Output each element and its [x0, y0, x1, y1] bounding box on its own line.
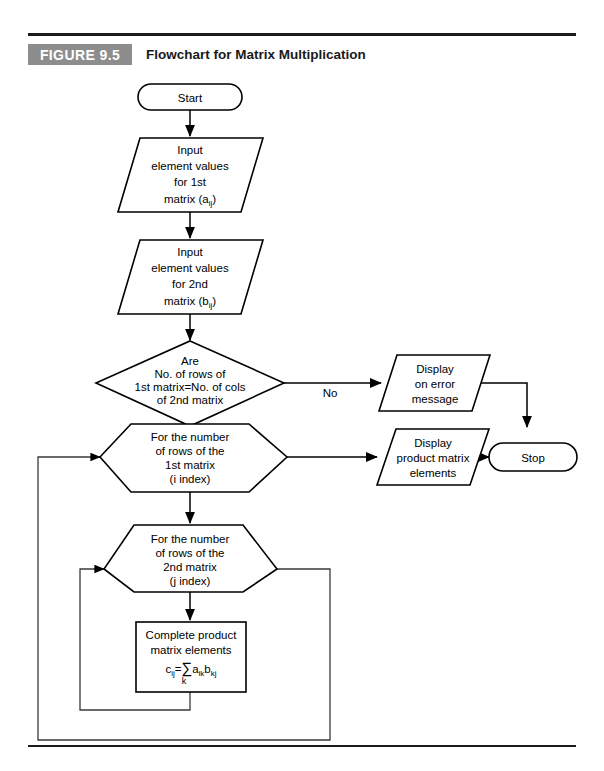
node-input1-line4-post: ): [212, 193, 216, 205]
node-input1-line2: element values: [151, 160, 229, 172]
node-input-first-matrix: Input element values for 1st matrix (aij…: [118, 138, 263, 212]
node-start-label: Start: [178, 92, 203, 104]
node-input2-line2: element values: [151, 262, 229, 274]
node-error-line2: on error: [415, 378, 455, 390]
node-input1-line3: for 1st: [174, 176, 207, 188]
node-display-error-message: Display on error message: [379, 355, 490, 411]
figure-number-badge: FIGURE 9.5: [28, 44, 132, 65]
connector-outer-loop-back: [38, 457, 330, 740]
node-loop-rows-second-matrix: For the number of rows of the 2nd matrix…: [104, 525, 277, 592]
node-decision-line1: Are: [181, 355, 199, 367]
node-loop-j-line3: 2nd matrix: [163, 561, 217, 573]
node-loop-i-line3: 1st matrix: [165, 459, 215, 471]
node-loop-j-line4: (j index): [170, 575, 211, 587]
figure-title: Flowchart for Matrix Multiplication: [146, 45, 366, 65]
flowchart-canvas: Start Input element values for 1st matri…: [0, 72, 604, 747]
node-compute-line1: Complete product: [146, 629, 238, 641]
node-compute-line2: matrix elements: [150, 644, 231, 656]
node-loop-j-line1: For the number: [151, 533, 230, 545]
node-loop-i-line2: of rows of the: [155, 445, 224, 457]
node-input2-line1: Input: [177, 246, 203, 258]
node-decision-line4: of 2nd matrix: [157, 394, 224, 406]
node-compute-product-elements: Complete product matrix elements cij=∑ai…: [136, 622, 246, 692]
top-rule: [28, 33, 576, 36]
formula-k-index: k: [182, 676, 187, 686]
node-input2-line3: for 2nd: [172, 278, 208, 290]
node-display-line1: Display: [414, 437, 452, 449]
node-decision-line2: No. of rows of: [155, 368, 227, 380]
formula-sigma: ∑: [181, 659, 192, 677]
node-loop-i-line1: For the number: [151, 431, 230, 443]
bottom-rule: [28, 745, 576, 747]
node-error-line1: Display: [416, 363, 454, 375]
formula-b-sub: kj: [211, 669, 217, 678]
node-decision-line3: 1st matrix=No. of cols: [135, 381, 246, 393]
node-input-second-matrix: Input element values for 2nd matrix (bij…: [118, 240, 263, 314]
node-loop-i-line4: (i index): [170, 473, 211, 485]
node-stop-label: Stop: [521, 452, 545, 464]
node-display-line2: product matrix: [397, 452, 470, 464]
node-display-product-matrix: Display product matrix elements: [377, 429, 489, 485]
node-decision-dimension-check: Are No. of rows of 1st matrix=No. of col…: [96, 341, 284, 426]
node-stop: Stop: [489, 443, 577, 471]
node-display-line3: elements: [410, 467, 457, 479]
figure-page: FIGURE 9.5 Flowchart for Matrix Multipli…: [0, 0, 604, 771]
node-error-line3: message: [412, 393, 459, 405]
node-start: Start: [138, 84, 242, 110]
node-input2-line4-pre: matrix (b: [164, 295, 209, 307]
node-loop-j-line2: of rows of the: [155, 547, 224, 559]
node-input2-line4-post: ): [212, 295, 216, 307]
node-input1-line4-pre: matrix (a: [164, 193, 209, 205]
node-input1-line1: Input: [177, 144, 203, 156]
node-loop-rows-first-matrix: For the number of rows of the 1st matrix…: [100, 424, 287, 492]
edge-label-no: No: [323, 387, 338, 399]
